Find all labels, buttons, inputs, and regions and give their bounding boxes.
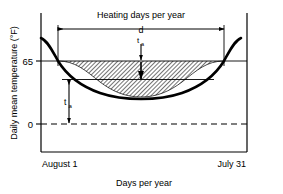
x-axis-label: Days per year [116,178,172,188]
y-axis-label: Daily mean temperature (°F) [9,26,19,140]
d-span-label: d [138,25,143,35]
x-tick-label-right: July 31 [217,159,246,169]
y-tick-label-0: 0 [28,119,33,130]
chart-canvas: Heating days per year d t a t a 65 0 Aug… [0,0,283,194]
heating-degree-days-chart: Heating days per year d t a t a 65 0 Aug… [0,0,283,194]
x-tick-label-left: August 1 [42,159,78,169]
y-tick-label-65: 65 [22,56,33,67]
heating-days-heading: Heating days per year [97,10,185,20]
